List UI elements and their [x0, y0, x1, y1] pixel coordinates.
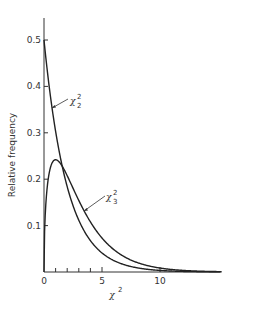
annotation-arrow: [84, 196, 105, 211]
y-tick-label: 0.3: [27, 128, 41, 138]
chi-square-chart: 0.10.20.30.40.5 0510 χ22χ23 Relative fre…: [0, 0, 262, 313]
y-tick-label: 0.4: [27, 81, 42, 91]
y-tick-label: 0.5: [27, 35, 41, 45]
annotation-label: χ: [69, 96, 76, 106]
annotation-sub: 3: [113, 198, 117, 206]
y-axis-label: Relative frequency: [7, 112, 17, 197]
y-ticks: 0.10.20.30.40.5: [27, 35, 48, 231]
x-axis-label-sup: 2: [118, 286, 122, 294]
x-tick-label: 10: [154, 276, 166, 286]
curve-df3: [44, 160, 221, 272]
x-axis-label: χ: [108, 290, 115, 300]
x-tick-label: 5: [99, 276, 105, 286]
annotations: χ22χ23: [52, 93, 117, 211]
y-tick-label: 0.2: [27, 174, 41, 184]
annotation-sup: 2: [113, 189, 117, 197]
axes: [44, 18, 220, 272]
annotation-label: χ: [105, 192, 112, 202]
curve-df2: [44, 40, 221, 272]
y-tick-label: 0.1: [27, 221, 41, 231]
annotation-sub: 2: [77, 102, 81, 110]
x-tick-label: 0: [41, 276, 47, 286]
curves: [44, 40, 221, 272]
annotation-sup: 2: [77, 93, 81, 101]
